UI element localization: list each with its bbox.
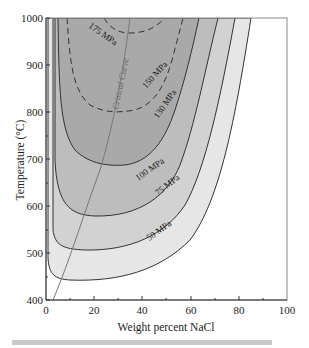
y-tick-label-1000: 1000 (21, 12, 44, 24)
x-tick-label-60: 60 (186, 304, 198, 316)
page-divider-bar (12, 340, 272, 345)
x-tick-label-0: 0 (43, 304, 49, 316)
y-tick-label-400: 400 (27, 294, 44, 306)
y-tick-label-900: 900 (27, 59, 44, 71)
y-tick-label-500: 500 (27, 247, 44, 259)
x-tick-label-20: 20 (89, 304, 101, 316)
phase-diagram-chart: 400 500 600 700 800 900 1000 0 20 40 60 … (0, 0, 309, 348)
y-axis-title: Temperature (°C) (14, 119, 27, 200)
y-tick-label-700: 700 (27, 153, 44, 165)
y-tick-label-800: 800 (27, 106, 44, 118)
x-tick-label-100: 100 (279, 304, 296, 316)
x-tick-label-40: 40 (137, 304, 149, 316)
x-tick-label-80: 80 (234, 304, 246, 316)
y-tick-label-600: 600 (27, 200, 44, 212)
x-axis-title: Weight percent NaCl (118, 321, 215, 334)
